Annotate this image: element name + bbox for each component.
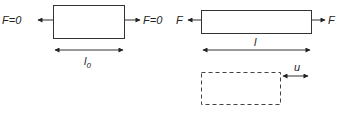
stretched-length-label: l [254,36,257,48]
right-tension-label: F [328,14,336,26]
loaded-bar [202,11,312,34]
displacement-label: u [294,61,300,73]
loaded-bar-panel: F F l u [176,11,336,105]
left-force-label: F=0 [2,14,22,26]
original-outline-dashed [202,73,281,105]
unloaded-bar-panel: F=0 F=0 l0 [2,6,163,71]
bar-extension-diagram: F=0 F=0 l0 F F l u [0,0,354,116]
left-tension-label: F [176,14,184,26]
original-length-label: l0 [84,55,91,70]
right-force-label: F=0 [143,14,163,26]
unloaded-bar [54,6,125,39]
